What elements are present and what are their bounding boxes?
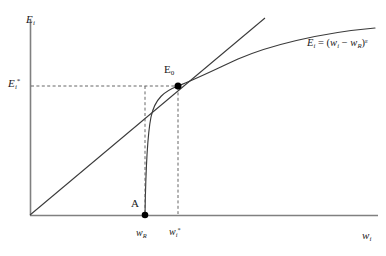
y-tick-base: E	[8, 77, 15, 89]
efficiency-wage-figure: Ei Ei* wi wR wi* E0 A Ei = (wi − wR)ε	[0, 0, 386, 256]
y-axis-label-sub: i	[33, 19, 35, 27]
point-E0-marker	[175, 83, 182, 90]
y-axis-label-base: E	[26, 13, 33, 25]
point-A-marker	[142, 212, 149, 219]
eq-wi-sub: i	[337, 42, 339, 49]
eq-exponent: ε	[365, 37, 368, 44]
eq-lhs: E	[307, 37, 313, 48]
y-tick-label-E-star: Ei*	[8, 78, 20, 89]
eq-minus: −	[339, 37, 350, 48]
point-E0-label: E0	[164, 64, 174, 75]
x-tick-wi-sup: *	[178, 226, 181, 233]
point-A-label: A	[131, 198, 139, 209]
x-tick-wi-base: w	[169, 226, 176, 237]
eq-wr-sub: R	[357, 42, 361, 49]
x-tick-wr-sub: R	[143, 232, 147, 239]
forty-five-degree-line	[30, 18, 265, 215]
x-axis-label: wi	[362, 230, 371, 241]
x-tick-wr-base: w	[136, 227, 143, 238]
x-tick-label-w-star-i: wi*	[169, 227, 181, 237]
effort-function-curve	[145, 28, 375, 215]
eq-equals: = (	[315, 37, 330, 48]
point-E0-base: E	[164, 63, 171, 75]
point-A-text: A	[131, 197, 139, 209]
x-tick-label-w-R: wR	[136, 228, 147, 238]
curve-equation-label: Ei = (wi − wR)ε	[307, 38, 368, 49]
y-tick-sup: *	[17, 77, 21, 85]
point-E0-sub: 0	[171, 69, 175, 77]
y-axis-label: Ei	[26, 14, 35, 25]
